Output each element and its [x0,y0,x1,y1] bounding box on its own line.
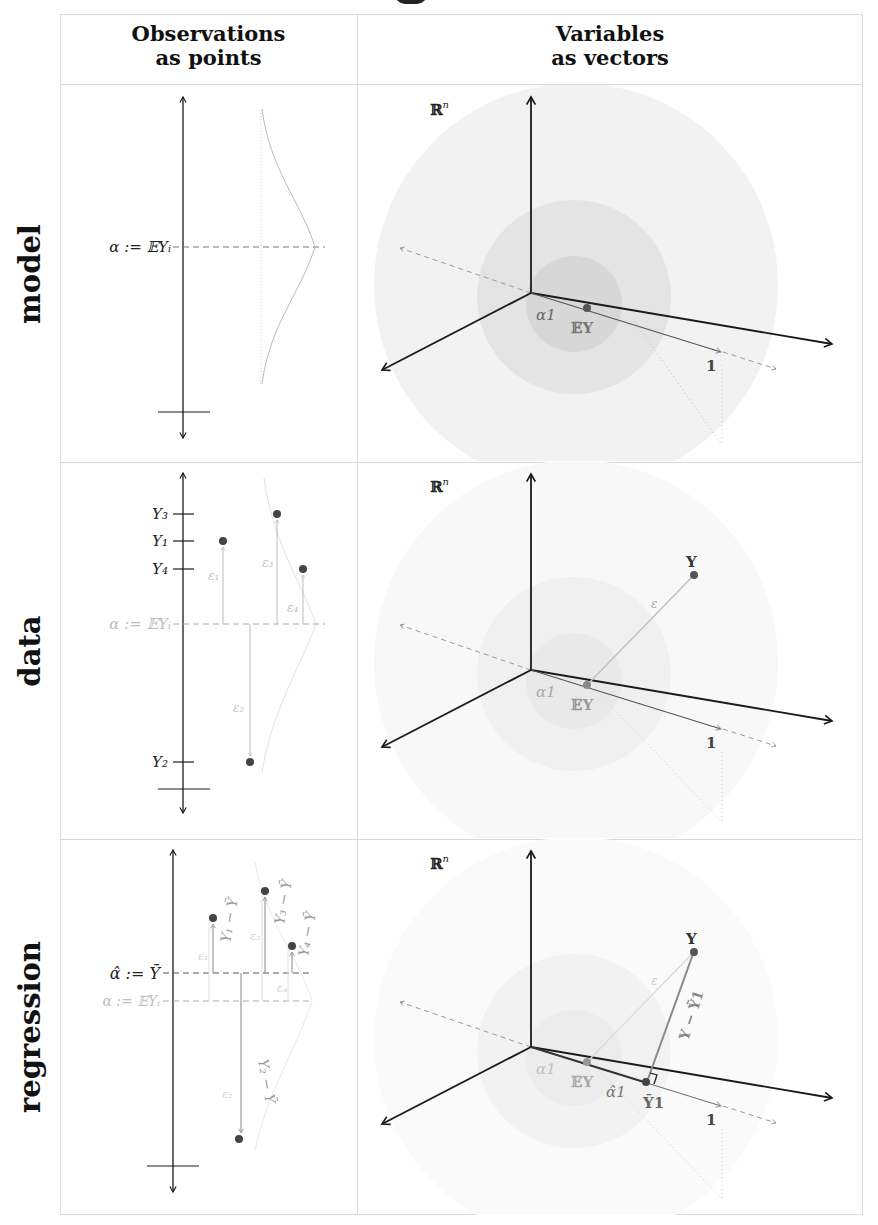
y-point [690,948,698,956]
y-point [690,571,698,579]
vectors-regression-panel: ℝn α1 𝔼Y α̂1 Ȳ1 Y ε Y − Ȳ1 1 [358,839,863,1215]
ybar-one-point [642,1078,650,1086]
one-label: 1 [706,357,716,375]
inner-sphere [526,633,622,729]
residual-3-label: Y₃ − Ȳ [270,877,295,926]
residual-4-label: Y₄ − Ȳ [294,909,319,958]
one-label: 1 [706,734,716,752]
alpha-hat-one-label: α̂1 [606,1083,626,1101]
y-label: Y [685,553,697,571]
alpha-hat-label: α̂ := Ȳ [110,963,162,983]
epsilon-label: ε [651,974,657,988]
number-line [147,850,199,1192]
ey-label: 𝔼Y [571,1073,593,1091]
vectors-data-panel: ℝn α1 𝔼Y Y ε 1 [358,462,863,839]
epsilon-4-label: ε₄ [277,982,287,995]
ey-label: 𝔼Y [571,696,593,714]
epsilon-1-label: ε₁ [198,950,208,963]
alpha-one-label: α1 [536,1060,556,1078]
ey-point [583,681,591,689]
epsilon-label: ε [651,597,657,611]
epsilon-2-label: ε₂ [222,1088,232,1101]
ey-point [583,304,591,312]
one-label: 1 [706,1111,716,1129]
rn-label: ℝn [430,99,449,119]
epsilon-3-label: ε₃ [250,930,260,943]
residual-1-label: Y₁ − Ȳ [216,895,241,944]
rn-label: ℝn [430,853,449,873]
ey-label: 𝔼Y [571,319,593,337]
vectors-model-panel: ℝn α1 𝔼Y 1 [358,85,863,462]
inner-sphere [526,256,622,352]
ey-point [583,1058,591,1066]
ybar-one-label: Ȳ1 [642,1093,664,1112]
rn-label: ℝn [430,476,449,496]
residual-2-label: Y₂ − Ȳ [255,1058,280,1107]
alpha-one-label: α1 [536,306,556,324]
alpha-label: α := 𝔼Yᵢ [102,993,160,1009]
alpha-one-label: α1 [536,683,556,701]
y-label: Y [685,930,697,948]
